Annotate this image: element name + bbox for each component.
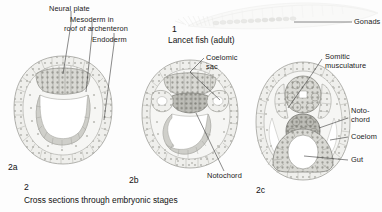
stage-label-2c: 2c	[256, 186, 265, 195]
lancet-fish-illustration	[175, 3, 378, 29]
label-endoderm: Endoderm	[92, 36, 127, 45]
embryo-2a	[14, 56, 112, 164]
label-neural-plate: Neural plate	[49, 5, 90, 14]
stage-label-2a: 2a	[8, 163, 18, 172]
figure-caption: Cross sections through embryonic stages	[24, 196, 178, 205]
embryology-figure: Neural plate Mesoderm in roof of archent…	[0, 0, 382, 212]
label-mesoderm-roof-archenteron-line2: roof of archenteron	[64, 25, 128, 34]
figure-number: 2	[24, 183, 29, 192]
label-coelom: Coelom	[351, 133, 377, 142]
label-coelomic-sac-line2: sac	[206, 63, 218, 72]
neural-tube-2c	[285, 76, 321, 113]
label-gut: Gut	[351, 156, 363, 165]
label-notochord-2b: Notochord	[207, 172, 242, 181]
stage-label-2b: 2b	[129, 176, 139, 185]
gut-lumen	[288, 135, 318, 169]
embryo-2b	[142, 60, 238, 168]
coelomic-sac-right	[207, 90, 229, 111]
illustration-layer	[0, 0, 382, 212]
label-gonads: Gonads	[354, 18, 380, 27]
embryo-2c	[256, 62, 350, 180]
label-notochord-2c-line2: chord	[351, 116, 370, 125]
adult-number: 1	[172, 25, 177, 34]
coelomic-sac-left	[151, 90, 173, 111]
neural-tube-lumen	[299, 91, 307, 98]
label-somitic-musculature-line2: musculature	[325, 62, 366, 71]
adult-label: Lancet fish (adult)	[168, 36, 235, 45]
